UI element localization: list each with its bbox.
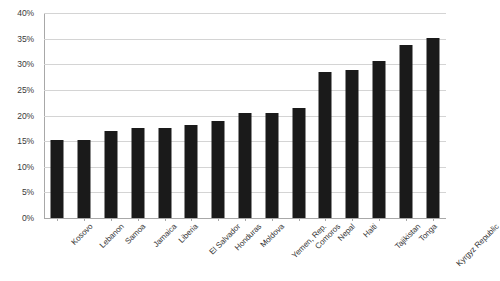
bar[interactable] xyxy=(238,113,251,218)
bar[interactable] xyxy=(292,108,305,218)
bar[interactable] xyxy=(426,38,439,218)
bar-slot xyxy=(205,13,232,218)
bar-slot xyxy=(419,13,446,218)
x-axis-tick-label: Samoa xyxy=(123,222,147,246)
bar-slot xyxy=(339,13,366,218)
x-axis-tick-label: Kyrgyz Republic xyxy=(454,222,500,268)
bar[interactable] xyxy=(131,128,144,218)
plot-area xyxy=(44,13,446,218)
x-axis-tick xyxy=(111,218,112,221)
bar[interactable] xyxy=(104,131,117,218)
bar-slot xyxy=(44,13,71,218)
bar-slot xyxy=(232,13,259,218)
x-axis-tick xyxy=(84,218,85,221)
x-axis-tick xyxy=(272,218,273,221)
bar[interactable] xyxy=(399,45,412,218)
x-axis-tick-label: Moldova xyxy=(259,222,286,249)
bar[interactable] xyxy=(212,121,225,218)
x-axis-tick xyxy=(245,218,246,221)
bar[interactable] xyxy=(78,140,91,218)
bar[interactable] xyxy=(346,70,359,218)
x-axis-tick-label: Lebanon xyxy=(98,222,126,250)
x-axis-tick-label: Haiti xyxy=(362,222,379,239)
x-axis-category-labels: KosovoLebanonSamoaJamaicaLiberiaEl Salva… xyxy=(44,222,446,281)
bar-slot xyxy=(71,13,98,218)
y-axis-tick-label: 15% xyxy=(17,136,34,146)
y-axis-tick-label: 0% xyxy=(22,213,34,223)
x-axis-tick xyxy=(406,218,407,221)
x-axis-tick-label: Kosovo xyxy=(70,222,95,247)
bar[interactable] xyxy=(51,140,64,218)
bar[interactable] xyxy=(265,113,278,218)
y-axis-tick-label: 25% xyxy=(17,85,34,95)
bar-slot xyxy=(366,13,393,218)
x-axis-tick xyxy=(352,218,353,221)
x-axis-tick xyxy=(191,218,192,221)
y-axis-tick-label: 35% xyxy=(17,34,34,44)
x-axis-tick xyxy=(379,218,380,221)
y-axis-tick-label: 40% xyxy=(17,8,34,18)
y-axis-tick-label: 5% xyxy=(22,187,34,197)
x-axis-tick xyxy=(218,218,219,221)
bar-slot xyxy=(151,13,178,218)
bar-slot xyxy=(258,13,285,218)
bar[interactable] xyxy=(185,125,198,218)
bar-slot xyxy=(98,13,125,218)
x-axis-tick-label: Jamaica xyxy=(151,222,178,249)
y-axis-tick-labels: 0%5%10%15%20%25%30%35%40% xyxy=(0,0,40,281)
bar-slot xyxy=(392,13,419,218)
bar[interactable] xyxy=(372,61,385,218)
bar-slot xyxy=(285,13,312,218)
x-axis-tick xyxy=(299,218,300,221)
y-axis-tick-label: 30% xyxy=(17,59,34,69)
bar[interactable] xyxy=(158,128,171,218)
bar-slot xyxy=(178,13,205,218)
x-axis-tick-label: Tonga xyxy=(417,222,438,243)
bar-slot xyxy=(312,13,339,218)
y-axis-tick-label: 20% xyxy=(17,111,34,121)
x-axis-tick xyxy=(325,218,326,221)
x-axis-tick-label: Liberia xyxy=(176,222,199,245)
x-axis-tick xyxy=(165,218,166,221)
y-axis-tick-label: 10% xyxy=(17,162,34,172)
bar-series xyxy=(44,13,446,218)
bar-slot xyxy=(124,13,151,218)
bar[interactable] xyxy=(319,72,332,218)
x-axis-tick xyxy=(138,218,139,221)
x-axis-tick xyxy=(57,218,58,221)
x-axis-tick xyxy=(433,218,434,221)
